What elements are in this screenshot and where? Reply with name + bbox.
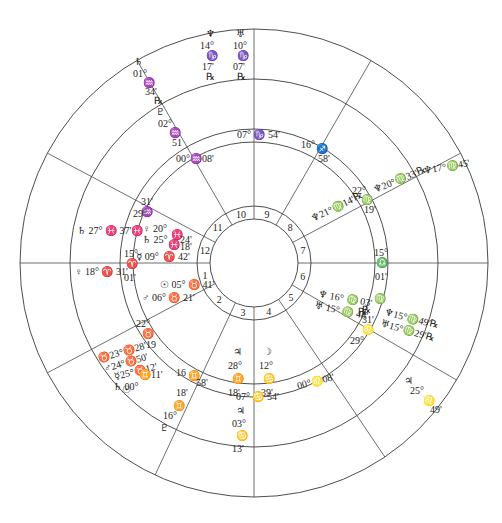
middle-venus: ♀ 18° ♈ 31' [75,265,128,278]
outer-uranus-top: ♅ 10° ♑ 07' ℞ [233,28,249,82]
inner-venus: ♀ 20° [143,223,167,234]
middle-jupiter: ♃ [236,405,245,416]
inner-jupiter-deg: 28° [228,360,242,371]
cusp-10-label: 07° ♑ 54' [237,128,280,141]
cusp-6-deg: 29° [350,335,364,346]
cusp-9-min: 58' [318,153,330,164]
house-numbers: 123456789101112 [200,209,305,318]
middle-jupiter-sign: ♋ [236,429,248,442]
inner-saturn: ♄ 25° [142,234,167,245]
middle-neptune-8: ♆20°♍33'℞ [371,163,428,196]
outer-neptune-top: ♆ 14° ♑ 17' ℞ [200,28,218,82]
house-cusp-line-3 [155,303,235,475]
cusp-3-deg: 16 [176,367,186,378]
inner-sun: ☉ 05° ♉ 41' [160,278,214,291]
cusp-7-min: 01' [375,271,387,282]
cusp-7-sign: ♎ [376,256,388,269]
inner-jupiter: ♃ [233,346,242,357]
middle-jupiter-deg: 03° [232,418,246,429]
house-number-12: 12 [200,245,210,256]
house-number-11: 11 [213,222,223,233]
outer-jupiter-deg: 25° [410,385,424,396]
inner-mercury-sign: ♈ [163,250,175,263]
svg-text:℞: ℞ [206,71,215,82]
house-number-6: 6 [300,271,305,282]
cusp-9-deg: 16° [301,139,315,150]
svg-text:♊11': ♊11' [139,368,163,381]
middle-pluto-3-deg: 16° [163,410,177,421]
cusp-8-min: 19' [364,204,376,215]
house-number-9: 9 [265,209,270,220]
outer-jupiter-min: 49' [430,404,442,415]
house-number-10: 10 [236,209,246,220]
house-number-3: 3 [241,307,246,318]
inner-retro-2: ℞ [358,306,367,317]
outer-neptune-8: ♆17°♍45' [422,156,471,177]
ring-6 [210,219,298,307]
svg-text:☉: ☉ [122,384,131,395]
inner-jupiter-sign: ♊ [232,372,244,385]
inner-mercury-min: 42' [178,251,190,262]
svg-text:♅: ♅ [236,28,245,39]
svg-text:♇: ♇ [156,106,165,117]
house-number-4: 4 [266,306,271,317]
inner-moon: ☽ [263,346,272,357]
house-number-7: 7 [300,245,305,256]
inner-mars: ♂ 06° ♉ 21' [142,291,195,304]
svg-text:♄: ♄ [134,56,143,67]
svg-text:℞: ℞ [237,71,246,82]
middle-saturn: ♄ 27° ♓ 37' [77,224,131,237]
house-number-5: 5 [288,292,293,303]
cusp-4-label: 07° ♋ 54' [236,390,279,403]
middle-pluto-11: ♇ 02° ♒ 51 [156,106,182,148]
house-number-2: 2 [217,294,222,305]
middle-jupiter-min: 13' [232,443,244,454]
cusp-12-deg: 29° [133,208,147,219]
house-cusps [20,29,488,497]
cusp-2-min: 19 [146,339,156,350]
inner-saturn-sign: ♓ [168,238,180,251]
cusp-6-sign: ♍ [374,292,386,305]
middle-pluto-3-min: 18' [176,387,188,398]
svg-text:51: 51 [172,137,182,148]
inner-moon-sign: ♋ [263,372,275,385]
house-number-8: 8 [288,222,293,233]
inner-mercury: ☿ 09° [136,251,159,262]
svg-text:♆: ♆ [206,28,215,39]
chart-wheel: 123456789101112 ♆ 14° ♑ 17' ℞ ♅ 10° ♑ 07… [0,0,502,523]
middle-pluto-3: ♇ [160,422,169,433]
cusp-11-label: 00°♒08' [176,152,214,165]
outer-saturn-11: ♄ 01° ♒ 34' ℞ [133,56,163,106]
cusp-3-min: 58' [196,377,208,388]
svg-text:℞: ℞ [154,95,163,106]
inner-moon-deg: 12° [259,360,273,371]
cusp-5-label: 00°♌08' [296,370,336,392]
